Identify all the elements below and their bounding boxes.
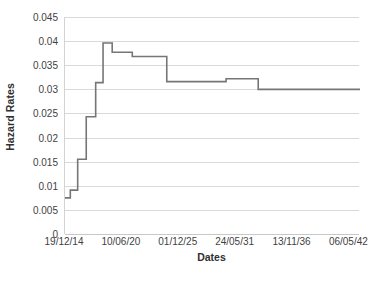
y-axis-tick-label: 0.035	[14, 60, 62, 71]
y-axis-tick-label: 0.02	[14, 132, 62, 143]
y-axis-tick-label: 0.015	[14, 156, 62, 167]
x-axis-tick-label: 24/05/31	[215, 236, 254, 247]
series-line-chart	[65, 17, 360, 234]
series-line	[65, 43, 360, 198]
y-axis-tick-label: 0.03	[14, 84, 62, 95]
gridline	[65, 234, 359, 235]
plot-area	[64, 17, 359, 234]
x-axis-tick-label: 19/12/14	[45, 236, 84, 247]
x-axis-tick-label: 06/05/42	[329, 236, 368, 247]
y-axis-tick-label: 0.005	[14, 204, 62, 215]
y-axis-tick-label: 0.025	[14, 108, 62, 119]
x-axis-tick-label: 10/06/20	[101, 236, 140, 247]
x-axis-tick-label: 01/12/25	[158, 236, 197, 247]
x-axis-title: Dates	[64, 251, 359, 263]
x-axis-tick-labels: 19/12/1410/06/2001/12/2524/05/3113/11/36…	[64, 236, 359, 252]
y-axis-tick-label: 0.045	[14, 12, 62, 23]
x-axis-tick-label: 13/11/36	[272, 236, 310, 247]
y-axis-tick-label: 0.01	[14, 180, 62, 191]
y-axis-tick-label: 0.04	[14, 36, 62, 47]
hazard-rates-chart: Hazard Rates 0.0450.040.0350.030.0250.02…	[0, 0, 371, 284]
